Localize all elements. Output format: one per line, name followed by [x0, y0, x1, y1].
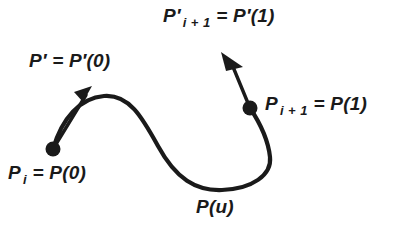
point-start-label: Pi = P(0) [8, 163, 86, 182]
point-start-base: P [8, 162, 21, 183]
point-start-rhs: = P(0) [32, 162, 85, 183]
point-end-rhs: = P(1) [314, 93, 367, 114]
tangent-end-base: P [163, 5, 176, 26]
parametric-curve-figure: P′i + 1 = P′(1) P′ = P′(0) Pi + 1 = P(1)… [0, 0, 407, 231]
tangent-start-prime: ′ [42, 50, 47, 71]
tangent-end-rhs: = P′(1) [216, 5, 274, 26]
point-end-base: P [265, 93, 278, 114]
tangent-end-label: P′i + 1 = P′(1) [163, 6, 275, 25]
start-tangent-vector-shaft [53, 95, 86, 149]
curve-point-label: P(u) [196, 197, 234, 216]
point-end-subscript: i + 1 [278, 103, 308, 118]
start-point-marker [46, 142, 61, 157]
end-tangent-arrowhead-icon [221, 52, 243, 71]
curve-point-base: P [196, 196, 209, 217]
tangent-start-rhs: = P′(0) [52, 50, 110, 71]
curve-point-rhs: (u) [209, 196, 234, 217]
tangent-end-prime: ′ [176, 5, 181, 26]
point-start-subscript: i [21, 172, 27, 187]
point-end-label: Pi + 1 = P(1) [265, 94, 367, 113]
tangent-end-subscript: i + 1 [181, 15, 211, 30]
end-point-marker [243, 101, 258, 116]
tangent-start-label: P′ = P′(0) [29, 51, 110, 70]
tangent-start-base: P [29, 50, 42, 71]
